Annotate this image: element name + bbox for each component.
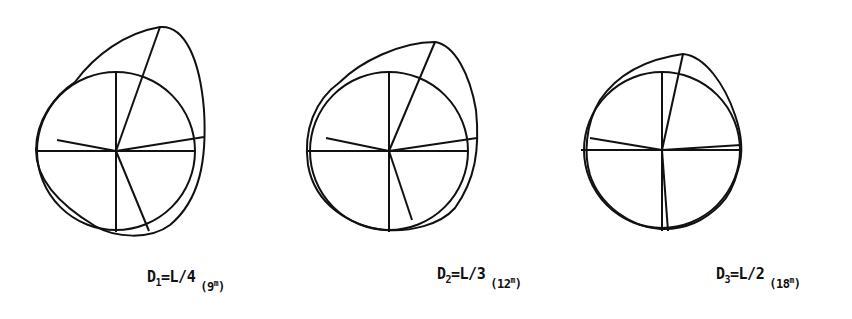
radial-line (389, 138, 477, 151)
label-subscript: 1 (156, 277, 162, 288)
label-main: D (437, 265, 446, 283)
radial-line (116, 137, 204, 151)
radial-line (116, 151, 149, 231)
radial-line (389, 42, 435, 151)
deformed-outline (36, 27, 205, 236)
panel-d1-diagram (36, 27, 205, 236)
panel-d2-diagram (307, 42, 477, 232)
label-subscript: 3 (725, 274, 731, 285)
radial-line (116, 27, 160, 151)
radial-line (590, 138, 662, 150)
panel-d3-diagram (581, 54, 742, 231)
label-d1: D1=L/4(9m) (147, 268, 225, 286)
label-d3: D3=L/2(18m) (716, 265, 800, 283)
label-main: D (147, 268, 156, 286)
radial-line (389, 151, 412, 220)
label-dimension: (12m) (490, 277, 521, 291)
deformed-outline (307, 42, 477, 230)
radial-line (57, 140, 116, 151)
label-equation: =L/3 (451, 265, 485, 283)
label-subscript: 2 (446, 274, 452, 285)
label-equation: =L/2 (730, 265, 764, 283)
label-equation: =L/4 (161, 268, 195, 286)
label-d2: D2=L/3(12m) (437, 265, 521, 283)
label-dimension: (18m) (769, 277, 800, 291)
radial-line (326, 138, 389, 151)
label-main: D (716, 265, 725, 283)
label-dimension: (9m) (200, 280, 225, 294)
radial-line (662, 54, 683, 150)
